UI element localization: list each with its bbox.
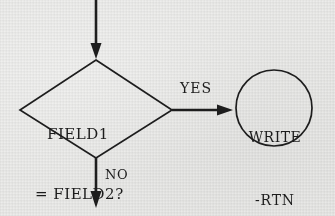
decision-node-label: FIELD1 = FIELD2? [35, 84, 167, 216]
terminal-label-line-2: -RTN [240, 190, 310, 211]
flowchart-canvas: FIELD1 = FIELD2? WRITE -RTN YES NO [0, 0, 335, 216]
terminal-node-label: WRITE -RTN [240, 85, 310, 216]
decision-label-line-2: = FIELD2? [35, 184, 167, 204]
no-branch-label: NO [105, 167, 128, 182]
yes-arrowhead [217, 105, 233, 116]
yes-branch-arrow [172, 105, 233, 116]
yes-branch-label: YES [180, 80, 212, 96]
terminal-label-line-1: WRITE [240, 127, 310, 148]
decision-label-line-1: FIELD1 [35, 124, 167, 144]
entry-arrowhead [91, 43, 102, 59]
entry-arrow [91, 0, 102, 59]
